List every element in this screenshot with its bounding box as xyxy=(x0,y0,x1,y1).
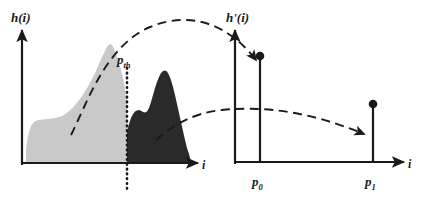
left-y-axis-label: h(i) xyxy=(11,10,31,25)
left-x-axis-label: i xyxy=(202,158,206,172)
threshold-label: pth xyxy=(116,52,131,70)
stem-p1-label-subscript: 1 xyxy=(372,182,376,192)
stem-p1-dot xyxy=(369,100,378,109)
figure-container: h(i) i pth h'(i) i p0 p1 xyxy=(0,0,436,198)
labels: h(i) i pth h'(i) i p0 p1 xyxy=(11,10,412,192)
stem-p0-dot xyxy=(256,52,265,61)
threshold-label-subscript: th xyxy=(124,60,131,70)
stem-p1-label: p1 xyxy=(364,174,376,192)
stem-p0-label-subscript: 0 xyxy=(259,182,264,192)
light-histogram-area xyxy=(26,44,127,163)
left-panel xyxy=(22,30,198,192)
right-y-axis-label: h'(i) xyxy=(226,10,249,25)
diagram-canvas: h(i) i pth h'(i) i p0 p1 xyxy=(0,0,436,198)
right-x-axis-label: i xyxy=(408,157,412,171)
dark-histogram-area xyxy=(127,71,192,164)
right-panel xyxy=(235,30,404,164)
stem-p0-label: p0 xyxy=(251,174,264,192)
